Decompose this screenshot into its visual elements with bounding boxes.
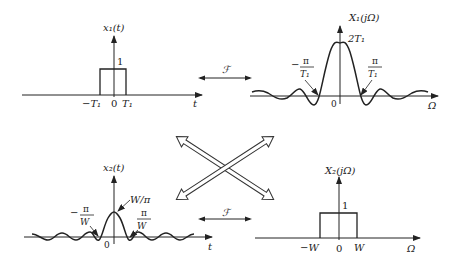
x1-title: x₁(t) xyxy=(103,22,125,33)
duality-arrows[interactable] xyxy=(173,131,277,204)
panel-X2-spectrum: X₂(jΩ) 1 −W 0 W Ω xyxy=(255,165,420,254)
fourier-symbol-bottom: ℱ xyxy=(222,207,232,218)
zero-right-den-2: W xyxy=(137,221,147,231)
height-label-2: 1 xyxy=(342,200,348,211)
zero-left-den: T₁ xyxy=(300,69,310,79)
height-label: 1 xyxy=(117,56,123,67)
peak-label-W-over-pi: W/π xyxy=(130,194,151,205)
tick-0-2: 0 xyxy=(336,243,342,254)
tick-neg-W: −W xyxy=(300,242,319,253)
zero-left-den-2: W xyxy=(80,217,90,227)
panel-x2-time: x₂(t) W/π − π W π W 0 t xyxy=(24,162,213,252)
peak-pointer xyxy=(118,200,130,211)
tick-T1: T₁ xyxy=(122,98,133,109)
zero-left-sign-2: − xyxy=(70,207,78,218)
panel-x1-time: x₁(t) 1 −T₁ 0 T₁ t xyxy=(22,22,202,109)
omega-axis-label-2: Ω xyxy=(406,243,415,254)
fourier-pair-top: ℱ xyxy=(198,64,252,81)
tick-0: 0 xyxy=(111,98,117,109)
x2-title: x₂(t) xyxy=(103,162,125,173)
fourier-pair-bottom: ℱ xyxy=(198,207,252,222)
zero-right-pointer xyxy=(361,80,372,95)
zero-right-den: T₁ xyxy=(368,69,378,79)
zero-right-num: π xyxy=(372,56,378,66)
X1-title: X₁(jΩ) xyxy=(348,12,379,23)
zero-right-num-2: π xyxy=(141,208,147,218)
t-axis-label-2: t xyxy=(208,241,213,252)
X2-title: X₂(jΩ) xyxy=(324,165,355,176)
sinc-curve-x2 xyxy=(32,212,194,240)
tick-W: W xyxy=(354,242,365,253)
origin-label: 0 xyxy=(331,99,337,109)
zero-left-num-2: π xyxy=(83,204,89,214)
peak-label-2T1: 2T₁ xyxy=(347,33,365,44)
panel-X1-spectrum: X₁(jΩ) 2T₁ − π T₁ π T₁ 0 Ω xyxy=(250,12,438,111)
zero-left-pointer xyxy=(305,80,318,95)
t-axis-label: t xyxy=(193,98,198,109)
tick-neg-T1: −T₁ xyxy=(82,98,101,109)
origin-label-2: 0 xyxy=(104,240,110,250)
omega-axis-label: Ω xyxy=(427,100,436,111)
zero-left-num: π xyxy=(303,56,309,66)
fourier-symbol-top: ℱ xyxy=(222,64,232,75)
rect-pulse xyxy=(100,69,126,95)
zero-left-sign: − xyxy=(291,59,299,70)
